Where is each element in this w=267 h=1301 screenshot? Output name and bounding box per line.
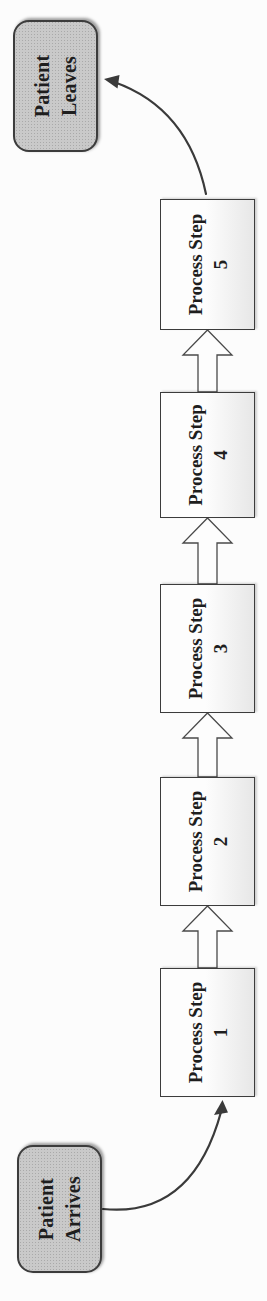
process-step-4-label: Process Step 4 bbox=[183, 404, 233, 506]
block-arrow-step4-step5 bbox=[183, 330, 232, 392]
process-step-3: Process Step 3 bbox=[160, 584, 255, 713]
start-node-line1: Patient bbox=[33, 1176, 60, 1242]
arrowhead-icon bbox=[214, 1100, 228, 1115]
connector-arrives-to-step1 bbox=[103, 1112, 221, 1210]
process-step-2-line2: 2 bbox=[208, 791, 233, 893]
process-step-2-line1: Process Step bbox=[183, 791, 208, 893]
process-step-5: Process Step 5 bbox=[160, 199, 255, 330]
process-step-1-line2: 1 bbox=[208, 982, 233, 1084]
start-node-patient-arrives: Patient Arrives bbox=[17, 1145, 102, 1273]
process-step-4-line1: Process Step bbox=[183, 404, 208, 506]
process-step-5-line1: Process Step bbox=[183, 214, 208, 316]
process-step-4: Process Step 4 bbox=[160, 392, 255, 518]
process-step-4-line2: 4 bbox=[208, 404, 233, 506]
start-node-line2: Arrives bbox=[60, 1176, 87, 1242]
flowchart-stage: Patient Arrives Process Step 1 Process S… bbox=[0, 0, 267, 1301]
scanned-page: Patient Arrives Process Step 1 Process S… bbox=[0, 0, 267, 1301]
block-arrow-step2-step3 bbox=[183, 713, 232, 777]
process-step-3-label: Process Step 3 bbox=[183, 598, 233, 700]
process-step-3-line1: Process Step bbox=[183, 598, 208, 700]
block-arrow-step3-step4 bbox=[183, 518, 232, 584]
end-node-patient-leaves: Patient Leaves bbox=[13, 20, 98, 152]
end-node-line1: Patient bbox=[29, 55, 56, 118]
end-node-line2: Leaves bbox=[56, 55, 83, 118]
connector-step5-to-leaves bbox=[114, 82, 206, 194]
process-step-2: Process Step 2 bbox=[160, 777, 255, 906]
process-step-5-label: Process Step 5 bbox=[183, 214, 233, 316]
process-step-2-label: Process Step 2 bbox=[183, 791, 233, 893]
block-arrow-step1-step2 bbox=[183, 906, 232, 968]
process-step-5-line2: 5 bbox=[208, 214, 233, 316]
arrowhead-icon bbox=[104, 75, 120, 89]
process-step-1-label: Process Step 1 bbox=[183, 982, 233, 1084]
process-step-3-line2: 3 bbox=[208, 598, 233, 700]
start-node-label: Patient Arrives bbox=[33, 1176, 87, 1242]
process-step-1-line1: Process Step bbox=[183, 982, 208, 1084]
end-node-label: Patient Leaves bbox=[29, 55, 83, 118]
process-step-1: Process Step 1 bbox=[160, 968, 255, 1097]
